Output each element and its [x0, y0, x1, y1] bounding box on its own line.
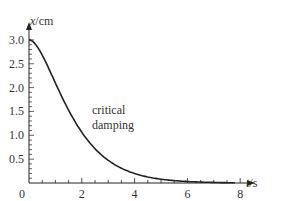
chart: 246800.51.01.52.02.53.0 x/cm t/s critica… [0, 0, 288, 201]
annotation-line1: critical [92, 103, 126, 117]
axes: 246800.51.01.52.02.53.0 [9, 26, 251, 201]
x-tick-label: 6 [184, 187, 190, 201]
y-tick-label: 1.5 [9, 104, 24, 118]
annotation-line2: damping [92, 118, 134, 132]
x-tick-label: 4 [132, 187, 138, 201]
y-tick-label: 2.5 [9, 57, 24, 71]
x-tick-label: 8 [237, 187, 243, 201]
y-axis-label: x/cm [29, 14, 54, 28]
x-tick-label: 2 [79, 187, 85, 201]
damping-curve [29, 40, 235, 183]
origin-label: 0 [19, 187, 25, 201]
y-tick-label: 2.0 [9, 81, 24, 95]
y-tick-label: 3.0 [9, 33, 24, 47]
y-tick-label: 1.0 [9, 128, 24, 142]
x-axis-label: t/s [246, 176, 258, 190]
y-tick-label: 0.5 [9, 152, 24, 166]
